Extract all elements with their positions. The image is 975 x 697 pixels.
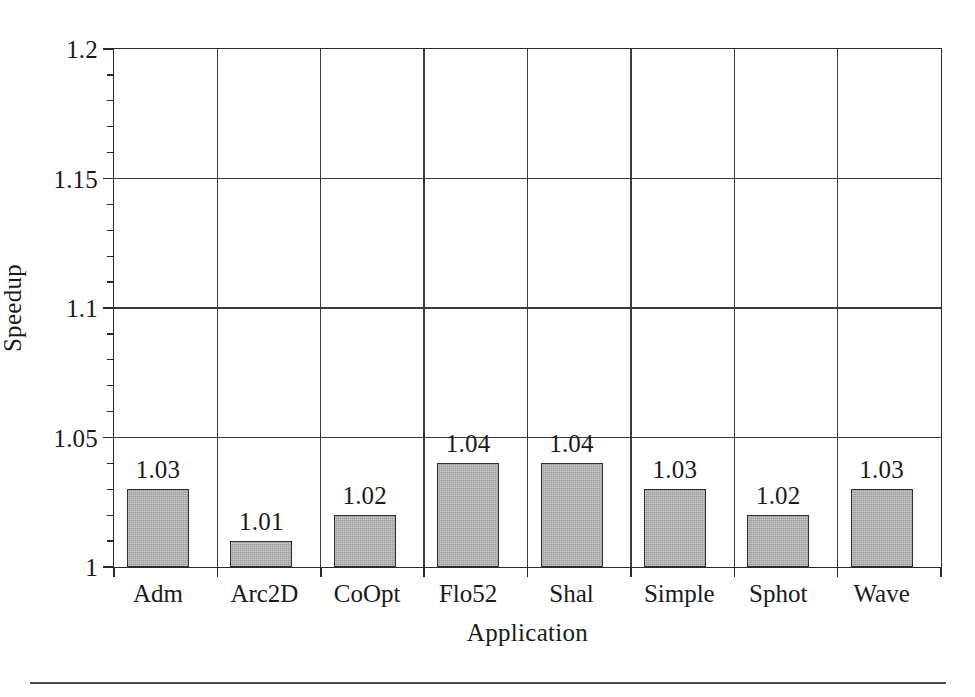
x-axis-category-label: Arc2D: [230, 581, 292, 606]
bar-value-label: 1.03: [851, 457, 913, 482]
bar-value-label: 1.03: [644, 457, 706, 482]
y-axis-minor-tick: [107, 540, 114, 541]
y-axis-title: Speedup: [0, 264, 25, 352]
bar-group: 1.02Sphot: [734, 49, 837, 567]
figure-bar-chart-speedup: Speedup 11.051.11.151.2 1.03Adm1.01Arc2D…: [0, 0, 975, 697]
y-axis-minor-tick: [107, 333, 114, 334]
x-axis-tick: [113, 567, 115, 577]
y-axis-minor-tick: [107, 515, 114, 516]
bar-value-label: 1.02: [334, 483, 396, 508]
bar-group: 1.04Shal: [528, 49, 631, 567]
y-axis-major-tick: [103, 437, 114, 439]
x-axis-category-label: Wave: [851, 581, 913, 606]
y-axis-minor-tick: [107, 126, 114, 127]
y-axis-tick-label: 1.2: [66, 37, 98, 62]
y-axis-minor-tick: [107, 230, 114, 231]
bar-group: 1.01Arc2D: [217, 49, 320, 567]
y-axis-minor-tick: [107, 489, 114, 490]
x-axis-tick: [527, 567, 529, 577]
bar-value-label: 1.02: [747, 483, 809, 508]
x-axis-category-label: Shal: [541, 581, 603, 606]
x-axis-tick: [423, 567, 425, 577]
bar: [127, 489, 189, 567]
y-axis-tick-label: 1.15: [53, 166, 98, 191]
x-axis-category-label: Flo52: [437, 581, 499, 606]
x-axis-tick: [320, 567, 322, 577]
y-axis-major-tick: [103, 178, 114, 180]
y-axis-minor-tick: [107, 74, 114, 75]
y-axis-minor-tick: [107, 359, 114, 360]
y-axis-tick-label: 1.05: [53, 425, 98, 450]
bar: [230, 541, 292, 567]
x-axis-tick: [940, 567, 942, 577]
bar: [437, 463, 499, 567]
plot-area: 11.051.11.151.2 1.03Adm1.01Arc2D1.02CoOp…: [113, 48, 942, 568]
bar-group: 1.04Flo52: [424, 49, 527, 567]
x-axis-title: Application: [113, 620, 942, 645]
x-axis-category-label: CoOpt: [334, 581, 396, 606]
bar: [851, 489, 913, 567]
bar-group: 1.02CoOpt: [321, 49, 424, 567]
y-axis-tick-label: 1.1: [66, 296, 98, 321]
bar-value-label: 1.04: [541, 431, 603, 456]
bar-group: 1.03Adm: [114, 49, 217, 567]
bar-value-label: 1.04: [437, 431, 499, 456]
y-axis-minor-tick: [107, 100, 114, 101]
bar: [334, 515, 396, 567]
y-axis-major-tick: [103, 307, 114, 309]
x-axis-category-label: Simple: [644, 581, 706, 606]
bar-group: 1.03Simple: [631, 49, 734, 567]
x-axis-tick: [630, 567, 632, 577]
x-axis-category-label: Adm: [127, 581, 189, 606]
y-axis-minor-tick: [107, 204, 114, 205]
y-axis-tick-label: 1: [85, 555, 98, 580]
x-axis-category-label: Sphot: [747, 581, 809, 606]
bar: [541, 463, 603, 567]
bar: [644, 489, 706, 567]
x-axis-tick: [734, 567, 736, 577]
y-axis-minor-tick: [107, 411, 114, 412]
bar-group: 1.03Wave: [838, 49, 941, 567]
y-axis-minor-tick: [107, 281, 114, 282]
footer-rule: [30, 682, 946, 684]
bar-value-label: 1.03: [127, 457, 189, 482]
y-axis-minor-tick: [107, 463, 114, 464]
y-axis-minor-tick: [107, 385, 114, 386]
y-axis-major-tick: [103, 48, 114, 50]
x-axis-tick: [837, 567, 839, 577]
bar: [747, 515, 809, 567]
bar-value-label: 1.01: [230, 509, 292, 534]
y-axis-minor-tick: [107, 152, 114, 153]
y-axis-minor-tick: [107, 256, 114, 257]
x-axis-tick: [217, 567, 219, 577]
